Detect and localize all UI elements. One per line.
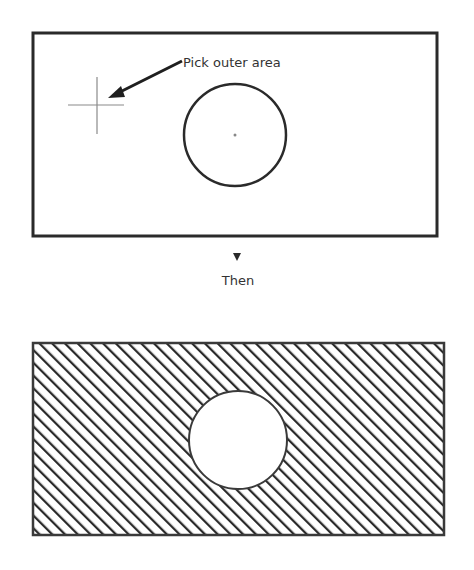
circle-center-mark <box>234 134 237 137</box>
step1-panel: Pick outer area <box>33 33 437 236</box>
unhatched-hole <box>189 391 287 489</box>
down-triangle-icon <box>233 253 241 261</box>
pick-outer-area-label: Pick outer area <box>183 55 281 70</box>
boundary-hatch-diagram: Pick outer area Then <box>0 0 474 570</box>
then-connector: Then <box>221 253 254 288</box>
then-label: Then <box>221 273 254 288</box>
step2-panel <box>33 343 444 535</box>
